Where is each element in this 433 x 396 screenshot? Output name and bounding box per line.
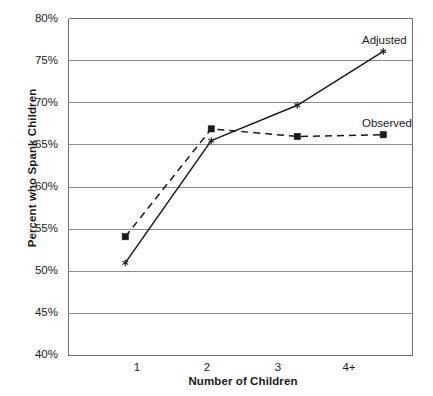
series-layer (122, 48, 386, 266)
chart-container: Percent who Spank Children 80% 75% 70% 6… (0, 0, 433, 396)
plot-area (0, 0, 433, 396)
gridlines (69, 19, 413, 356)
